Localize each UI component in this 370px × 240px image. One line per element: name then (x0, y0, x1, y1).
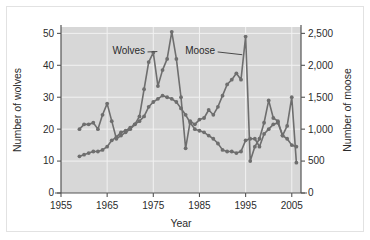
y-axis-right-tick-label: 1,500 (308, 92, 333, 103)
data-point (188, 119, 192, 123)
data-point (138, 114, 142, 118)
data-point (165, 57, 169, 61)
data-point (110, 138, 114, 142)
data-point (285, 137, 289, 141)
x-axis-title: Year (170, 217, 192, 229)
data-point (244, 138, 248, 142)
y-axis-right-title: Number of moose (341, 68, 353, 152)
data-point (198, 118, 202, 122)
data-point (91, 150, 95, 154)
y-axis-left-tick-label: 0 (48, 187, 54, 198)
data-point (105, 145, 109, 149)
y-axis-left-tick-label: 10 (43, 155, 55, 166)
data-point (234, 71, 238, 75)
data-point (230, 78, 234, 82)
annotation-label-moose: Moose (185, 45, 215, 56)
data-point (207, 108, 211, 112)
data-point (193, 127, 197, 131)
annotation-label-wolves: Wolves (112, 45, 145, 56)
data-point (285, 124, 289, 128)
y-axis-left-tick-label: 50 (43, 28, 55, 39)
data-point (193, 122, 197, 126)
data-point (244, 35, 248, 39)
data-point (87, 151, 91, 155)
data-point (156, 84, 160, 88)
data-point (239, 78, 243, 82)
data-point (174, 100, 178, 104)
data-point (105, 102, 109, 106)
y-axis-left-tick-label: 30 (43, 92, 55, 103)
y-axis-left-title: Number of wolves (11, 68, 23, 152)
data-point (78, 154, 82, 158)
data-point (290, 95, 294, 99)
y-axis-right-tick-label: 2,000 (308, 60, 333, 71)
data-point (198, 129, 202, 133)
x-axis-tick-label: 1995 (234, 200, 257, 211)
data-point (202, 130, 206, 134)
data-point (174, 57, 178, 61)
data-point (258, 145, 262, 149)
data-point (216, 105, 220, 109)
data-point (184, 113, 188, 117)
data-point (290, 143, 294, 147)
y-axis-right-tick-label: 500 (308, 155, 325, 166)
data-point (281, 134, 285, 138)
data-point (110, 119, 114, 123)
x-axis-tick-label: 1965 (96, 200, 119, 211)
y-axis-left-tick-label: 40 (43, 60, 55, 71)
data-point (78, 127, 82, 131)
y-axis-right-tick-label: 1,000 (308, 124, 333, 135)
data-point (267, 99, 271, 103)
x-axis-tick-label: 1955 (50, 200, 73, 211)
data-point (253, 137, 257, 141)
data-point (124, 130, 128, 134)
data-point (170, 97, 174, 101)
data-point (258, 137, 262, 141)
y-axis-right-tick-label: 2,500 (308, 28, 333, 39)
x-axis-tick-label: 2005 (281, 200, 304, 211)
data-point (91, 121, 95, 125)
data-point (114, 137, 118, 141)
data-point (230, 150, 234, 154)
data-point (128, 127, 132, 131)
data-point (294, 161, 298, 165)
data-point (96, 127, 100, 131)
data-point (271, 122, 275, 126)
data-point (179, 95, 183, 99)
y-axis-right-tick-label: 0 (308, 187, 314, 198)
data-point (234, 151, 238, 155)
data-point (87, 122, 91, 126)
data-point (101, 148, 105, 152)
data-point (147, 105, 151, 109)
data-point (165, 95, 169, 99)
chart-figure: 0102030405005001,0001,5002,0002,50019551… (0, 0, 370, 240)
data-point (225, 83, 229, 87)
data-point (156, 97, 160, 101)
data-point (262, 132, 266, 136)
data-point (211, 137, 215, 141)
data-point (221, 94, 225, 98)
data-point (101, 113, 105, 117)
data-point (248, 159, 252, 163)
data-point (271, 116, 275, 120)
data-point (221, 148, 225, 152)
x-axis-tick-label: 1975 (142, 200, 165, 211)
y-axis-left-tick-label: 20 (43, 124, 55, 135)
data-point (96, 150, 100, 154)
data-point (225, 150, 229, 154)
data-point (142, 87, 146, 91)
data-point (207, 134, 211, 138)
data-point (161, 68, 165, 72)
data-point (142, 114, 146, 118)
data-point (253, 145, 257, 149)
data-point (133, 122, 137, 126)
chart-frame: 0102030405005001,0001,5002,0002,50019551… (6, 6, 364, 232)
x-axis-tick-label: 1985 (188, 200, 211, 211)
data-point (202, 116, 206, 120)
data-point (276, 119, 280, 123)
data-point (82, 122, 86, 126)
data-point (161, 94, 165, 98)
data-point (262, 121, 266, 125)
data-point (151, 100, 155, 104)
data-point (216, 142, 220, 146)
